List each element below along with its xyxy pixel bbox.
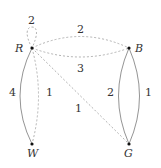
weight-B-G-right: 1	[145, 87, 152, 98]
node-label-B: B	[135, 43, 143, 54]
node-R	[30, 46, 33, 49]
weight-B-G-left: 2	[107, 87, 114, 98]
edge-R-B-upper	[32, 37, 129, 49]
weight-R-R-loop: 2	[28, 15, 35, 26]
node-label-W: W	[27, 148, 38, 159]
edge-B-G-left	[119, 48, 130, 144]
node-W	[30, 142, 33, 145]
edge-R-W-dashed	[32, 48, 39, 144]
edge-R-R-loop	[27, 27, 36, 48]
node-B	[127, 46, 130, 49]
edge-R-B-lower	[32, 48, 129, 57]
edge-B-G-right	[129, 48, 140, 144]
weight-R-B-upper: 2	[77, 24, 84, 35]
node-label-G: G	[124, 148, 133, 159]
weight-R-W-solid: 4	[9, 87, 16, 98]
edge-R-W-solid	[20, 48, 32, 144]
node-G	[127, 142, 130, 145]
weight-R-W-dashed: 1	[46, 87, 53, 98]
node-label-R: R	[15, 43, 23, 54]
weight-R-B-lower: 3	[77, 63, 84, 74]
weight-R-G: 1	[75, 103, 82, 114]
